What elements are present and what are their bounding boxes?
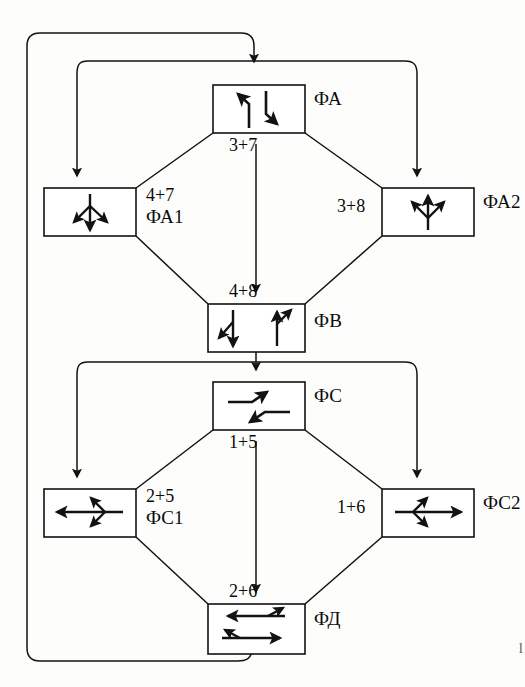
- movement-code-phb: 4+8: [229, 281, 257, 302]
- phase-box-layer: [0, 0, 525, 687]
- phase-label-phd: ФД: [314, 608, 341, 629]
- movement-code-pha: 3+7: [229, 135, 257, 156]
- phase-sequence-diagram: ФА ФА1 ФА2 ФВ ФС ФС1 ФС2 ФД 3+7 4+7 3+8 …: [0, 0, 525, 687]
- phase-label-phc1: ФС1: [146, 507, 184, 528]
- phase-label-pha: ФА: [314, 88, 342, 109]
- movement-code-phd: 2+6: [229, 581, 257, 602]
- phase-label-pha1: ФА1: [146, 206, 184, 227]
- phase-label-phb: ФВ: [314, 310, 342, 331]
- page-corner-mark: l: [519, 640, 523, 657]
- phase-box-pha: [213, 85, 305, 133]
- movement-code-pha2: 3+8: [337, 196, 365, 217]
- movement-code-phc1: 2+5: [146, 486, 174, 507]
- phase-label-phc: ФС: [314, 385, 342, 406]
- movement-code-pha1: 4+7: [146, 185, 174, 206]
- movement-code-phc: 1+5: [229, 432, 257, 453]
- phase-label-phc2: ФС2: [483, 492, 521, 513]
- phase-box-phc: [213, 382, 305, 430]
- phase-box-phd: [208, 604, 305, 654]
- movement-code-phc2: 1+6: [337, 497, 365, 518]
- phase-label-pha2: ФА2: [483, 191, 521, 212]
